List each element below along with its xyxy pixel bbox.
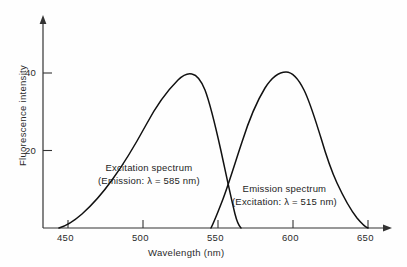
x-axis-ticks: [68, 220, 368, 228]
x-tick-label-550: 550: [207, 232, 224, 243]
y-axis: [40, 15, 47, 228]
x-tick-label-650: 650: [357, 232, 374, 243]
emission-annotation-line1: Emission spectrum: [232, 182, 337, 195]
y-axis-title: Fluorescence intensity: [17, 56, 28, 176]
emission-annotation: Emission spectrum (Excitation: λ = 515 n…: [232, 182, 337, 208]
x-tick-label-600: 600: [282, 232, 299, 243]
y-axis-ticks: [43, 73, 52, 151]
fluorescence-spectra-figure: 20 40 450 500 550 600 650 Fluorescence i…: [0, 0, 407, 267]
emission-annotation-line2: (Excitation: λ = 515 nm): [232, 195, 337, 208]
x-tick-label-450: 450: [57, 232, 74, 243]
excitation-annotation: Excitation spectrum (Emission: λ = 585 n…: [98, 161, 200, 187]
x-tick-label-500: 500: [132, 232, 149, 243]
chart-canvas: [0, 0, 407, 267]
excitation-annotation-line2: (Emission: λ = 585 nm): [98, 174, 200, 187]
x-axis-title: Wavelength (nm): [148, 247, 224, 258]
excitation-spectrum-curve: [59, 74, 241, 228]
excitation-annotation-line1: Excitation spectrum: [98, 161, 200, 174]
